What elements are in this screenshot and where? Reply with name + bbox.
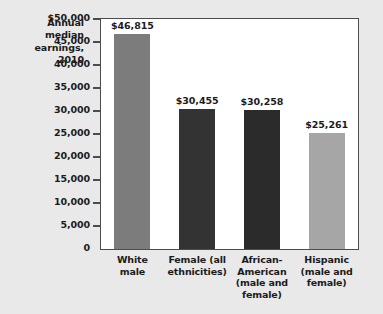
y-axis-tick-label: 0: [83, 242, 90, 253]
y-axis-tick-label: 35,000: [54, 81, 90, 92]
y-axis-tick-mark: [93, 18, 100, 19]
y-axis-tick-label: 40,000: [54, 58, 90, 69]
x-axis-category-line: male: [97, 266, 168, 278]
bar: $30,258: [244, 110, 280, 249]
x-axis-category-line: female): [291, 277, 362, 289]
x-axis-category-label: Female (allethnicities): [162, 254, 233, 277]
y-axis-tick-mark: [93, 225, 100, 226]
y-axis-tick-label: 20,000: [54, 150, 90, 161]
chart-figure: Annualmedianearnings,2010 $46,815$30,455…: [0, 0, 383, 314]
bar-value-label: $30,258: [241, 96, 284, 107]
y-axis-tick-label: $50,000: [47, 12, 90, 23]
y-axis-tick-mark: [93, 110, 100, 111]
bar-value-label: $30,455: [176, 95, 219, 106]
y-axis-tick-label: 5,000: [60, 219, 90, 230]
x-axis-category-line: ethnicities): [162, 266, 233, 278]
y-axis-tick-mark: [93, 41, 100, 42]
x-axis-category-line: African-: [227, 254, 298, 266]
x-axis-category-line: White: [97, 254, 168, 266]
y-axis-tick-label: 10,000: [54, 196, 90, 207]
bar: $46,815: [114, 34, 150, 249]
x-axis-category-label: Hispanic(male andfemale): [291, 254, 362, 289]
x-axis-category-line: female): [227, 289, 298, 301]
y-axis-tick-label: 45,000: [54, 35, 90, 46]
x-axis-category-label: African-American(male andfemale): [227, 254, 298, 300]
bar-value-label: $46,815: [111, 20, 154, 31]
x-axis-category-line: (male and: [291, 266, 362, 278]
y-axis-tick-label: 25,000: [54, 127, 90, 138]
x-axis-category-line: Hispanic: [291, 254, 362, 266]
y-axis-tick-mark: [93, 179, 100, 180]
x-axis-category-line: Female (all: [162, 254, 233, 266]
y-axis-tick-mark: [93, 156, 100, 157]
y-axis-tick-mark: [93, 133, 100, 134]
y-axis-tick-label: 30,000: [54, 104, 90, 115]
y-axis-tick-mark: [93, 87, 100, 88]
bar: $30,455: [179, 109, 215, 249]
y-axis: $50,00045,00040,00035,00030,00025,00020,…: [0, 0, 100, 314]
plot-area: $46,815$30,455$30,258$25,261: [100, 18, 359, 250]
x-axis-category-label: Whitemale: [97, 254, 168, 277]
y-axis-tick-label: 15,000: [54, 173, 90, 184]
x-axis-category-line: (male and: [227, 277, 298, 289]
y-axis-tick-mark: [93, 64, 100, 65]
bar: $25,261: [309, 133, 345, 249]
x-axis-category-line: American: [227, 266, 298, 278]
bar-value-label: $25,261: [305, 119, 348, 130]
y-axis-tick-mark: [93, 202, 100, 203]
